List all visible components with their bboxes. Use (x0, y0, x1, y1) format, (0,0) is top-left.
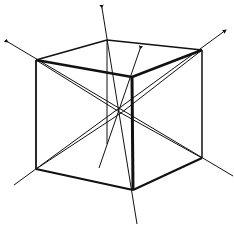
cube-diagram (0, 0, 234, 229)
edge-fbl-fbr (36, 169, 133, 190)
edge-btl-btr (107, 40, 202, 50)
axis-lines (8, 8, 233, 224)
edge-ftl-btl (36, 40, 107, 60)
edge-ftr-fbr (132, 77, 133, 190)
edge-fbr-bbr (133, 158, 202, 190)
